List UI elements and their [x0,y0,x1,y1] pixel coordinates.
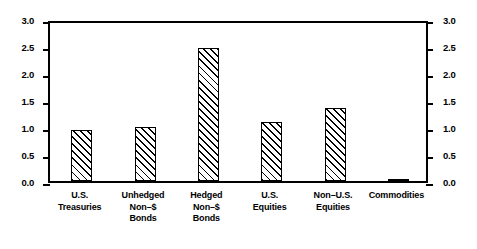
y-tick-right-0.0 [426,184,433,186]
x-label-u-s-treasuries: U.S.Treasuries [58,190,102,213]
y-tick-right-0.5 [426,157,433,159]
y-tick-left-3.0 [43,22,50,24]
y-tick-label-left-3.0: 3.0 [21,16,34,26]
x-label-line: Hedged [190,190,222,202]
y-tick-left-1.5 [43,103,50,105]
x-label-line: Equities [314,202,353,214]
y-tick-label-left-0.0: 0.0 [21,178,34,188]
x-label-line: Unhedged [122,190,165,202]
y-tick-left-0.5 [43,157,50,159]
y-tick-label-right-1.5: 1.5 [443,97,456,107]
bar-non-u-s-equities [325,108,346,181]
plot-frame [48,21,428,183]
x-label-u-s-equities: U.S.Equities [253,190,287,213]
x-label-line: Bonds [190,213,222,225]
x-label-line: Commodities [369,190,424,202]
x-label-line: Non–$ [122,202,165,214]
x-label-line: Non–U.S. [314,190,353,202]
x-label-unhedged-non-bonds: UnhedgedNon–$Bonds [122,190,165,225]
x-label-line: Equities [253,202,287,214]
x-label-line: Bonds [122,213,165,225]
y-tick-label-right-3.0: 3.0 [443,16,456,26]
y-tick-label-right-0.0: 0.0 [443,178,456,188]
y-tick-label-right-0.5: 0.5 [443,151,456,161]
y-tick-right-2.5 [426,49,433,51]
x-label-line: Treasuries [58,202,102,214]
y-tick-right-2.0 [426,76,433,78]
y-tick-label-left-0.5: 0.5 [21,151,34,161]
y-tick-left-1.0 [43,130,50,132]
y-tick-label-right-1.0: 1.0 [443,124,456,134]
y-tick-right-3.0 [426,22,433,24]
y-tick-left-2.5 [43,49,50,51]
y-tick-right-1.0 [426,130,433,132]
bar-commodities [388,179,409,181]
y-tick-label-left-1.5: 1.5 [21,97,34,107]
bar-chart-figure: 0.00.51.01.52.02.53.0 0.00.51.01.52.02.5… [0,0,477,249]
y-tick-label-left-2.5: 2.5 [21,43,34,53]
y-tick-label-right-2.5: 2.5 [443,43,456,53]
bar-u-s-treasuries [71,130,92,181]
bar-u-s-equities [261,122,282,181]
x-label-commodities: Commodities [369,190,424,202]
x-label-hedged-non-bonds: HedgedNon–$Bonds [190,190,222,225]
bar-unhedged-non-bonds [135,127,156,181]
plot-area [50,23,426,181]
x-label-non-u-s-equities: Non–U.S.Equities [314,190,353,213]
y-tick-label-left-2.0: 2.0 [21,70,34,80]
y-tick-label-right-2.0: 2.0 [443,70,456,80]
y-tick-right-1.5 [426,103,433,105]
bar-hedged-non-bonds [198,48,219,181]
y-tick-left-2.0 [43,76,50,78]
x-label-line: U.S. [253,190,287,202]
x-label-line: Non–$ [190,202,222,214]
y-tick-label-left-1.0: 1.0 [21,124,34,134]
y-tick-left-0.0 [43,184,50,186]
x-label-line: U.S. [58,190,102,202]
